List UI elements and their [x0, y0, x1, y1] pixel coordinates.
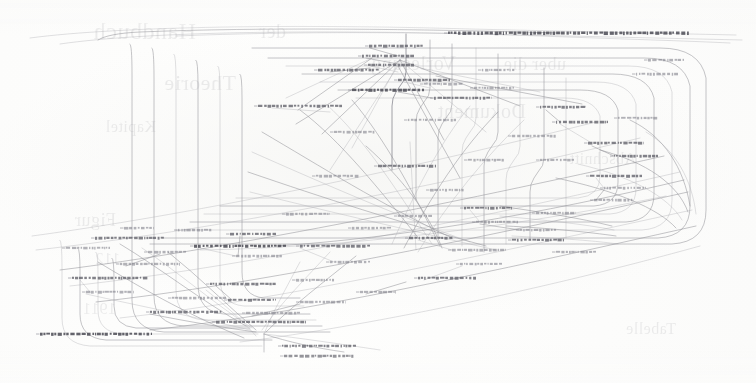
node-label-glyph [216, 321, 220, 324]
node-label-glyph [432, 277, 436, 279]
node-label-glyph [338, 261, 342, 264]
graph-node[interactable] [394, 79, 450, 82]
node-label-glyph [563, 121, 567, 123]
graph-node[interactable] [116, 263, 180, 266]
graph-node[interactable] [356, 291, 396, 294]
node-label-glyph [360, 89, 363, 91]
node-label-glyph [104, 247, 105, 249]
graph-node[interactable] [614, 117, 657, 120]
graph-node[interactable] [448, 249, 506, 252]
graph-node[interactable] [212, 321, 306, 324]
graph-node[interactable] [464, 159, 504, 162]
node-label-glyph [309, 279, 311, 282]
node-label-glyph [448, 83, 452, 86]
graph-node[interactable] [536, 106, 586, 109]
node-label-glyph [252, 312, 255, 314]
node-label-glyph [236, 255, 239, 257]
graph-node[interactable] [91, 237, 164, 240]
graph-node[interactable] [394, 215, 432, 218]
graph-node[interactable] [478, 69, 514, 72]
node-label-glyph [355, 131, 357, 134]
graph-node[interactable] [365, 45, 423, 48]
node-label-glyph [443, 119, 447, 121]
node-label-glyph [368, 131, 371, 133]
graph-node[interactable] [456, 263, 502, 266]
graph-node[interactable] [586, 175, 642, 178]
graph-node[interactable] [292, 279, 334, 282]
graph-node[interactable] [280, 355, 353, 358]
node-label-glyph [577, 32, 580, 35]
graph-node[interactable] [348, 89, 424, 92]
graph-node[interactable] [420, 83, 462, 86]
graph-node[interactable] [444, 32, 689, 36]
graph-node[interactable] [296, 245, 370, 248]
graph-node[interactable] [224, 299, 276, 302]
node-label-glyph [318, 355, 322, 358]
node-label-glyph [449, 237, 452, 239]
graph-node[interactable] [414, 277, 476, 280]
node-label-glyph [620, 142, 622, 144]
graph-node[interactable] [232, 255, 282, 258]
graph-node[interactable] [536, 159, 574, 162]
graph-node[interactable] [296, 301, 346, 304]
node-label-glyph [324, 345, 326, 347]
graph-node[interactable] [460, 207, 512, 210]
graph-node[interactable] [632, 73, 678, 76]
node-label-glyph [437, 83, 440, 85]
graph-node[interactable] [508, 135, 556, 138]
graph-node[interactable] [430, 97, 492, 100]
graph-node[interactable] [426, 189, 464, 192]
node-label-glyph [669, 59, 673, 62]
node-label-glyph [279, 255, 282, 258]
graph-node[interactable] [144, 251, 186, 254]
node-label-glyph [514, 32, 517, 35]
node-label-glyph [356, 227, 359, 229]
node-label-glyph [115, 277, 117, 279]
graph-node[interactable] [610, 155, 658, 158]
graph-node[interactable] [644, 59, 684, 62]
node-label-glyph [389, 89, 391, 91]
graph-node[interactable] [348, 227, 391, 230]
node-label-glyph [618, 187, 622, 189]
node-label-glyph [554, 135, 556, 138]
node-label-glyph [75, 277, 78, 280]
node-label-glyph [642, 32, 646, 35]
node-label-glyph [454, 32, 457, 35]
node-label-glyph [377, 89, 379, 91]
node-label-glyph [547, 106, 550, 108]
node-label-glyph [300, 245, 303, 248]
node-label-glyph [196, 311, 199, 314]
node-label-glyph [445, 277, 448, 279]
node-label-glyph [311, 279, 315, 281]
node-label-glyph [70, 333, 74, 336]
graph-node[interactable] [590, 199, 632, 202]
graph-node[interactable] [552, 121, 608, 124]
node-label-glyph [272, 105, 276, 107]
node-label-glyph [320, 279, 322, 281]
node-label-glyph [343, 175, 347, 177]
node-label-glyph [667, 73, 670, 75]
graph-node[interactable] [404, 119, 456, 122]
graph-node[interactable] [82, 291, 134, 294]
node-label-glyph [438, 119, 442, 121]
node-label-glyph [593, 142, 596, 144]
graph-node[interactable] [508, 239, 564, 242]
graph-node[interactable] [600, 187, 646, 190]
node-label-glyph [590, 175, 594, 177]
node-label-glyph [230, 233, 234, 236]
graph-node[interactable] [206, 283, 276, 286]
node-label-glyph [329, 279, 331, 281]
graph-node[interactable] [120, 227, 154, 230]
graph-node[interactable] [358, 55, 414, 58]
graph-node[interactable] [36, 333, 152, 336]
graph-node[interactable] [226, 233, 276, 236]
node-label-glyph [506, 207, 510, 209]
graph-node[interactable] [62, 247, 110, 250]
node-label-glyph [434, 97, 436, 100]
graph-node[interactable] [312, 175, 358, 178]
node-label-glyph [585, 121, 588, 124]
graph-node[interactable] [254, 105, 342, 108]
node-label-glyph [438, 79, 442, 82]
node-label-glyph [452, 249, 456, 252]
node-label-glyph [667, 59, 668, 62]
